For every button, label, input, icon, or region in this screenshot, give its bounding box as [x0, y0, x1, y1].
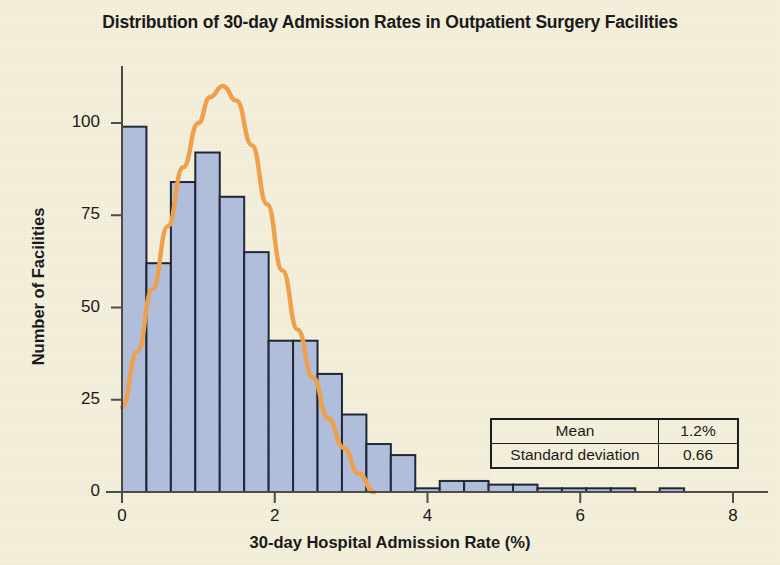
y-axis-tick-label: 75 [40, 204, 100, 224]
stat-label-cell: Standard deviation [491, 443, 659, 467]
x-axis-tick-label: 8 [713, 506, 753, 526]
stat-label-cell: Mean [491, 419, 659, 443]
stat-value-cell: 0.66 [659, 443, 739, 467]
stat-value-cell: 1.2% [659, 419, 739, 443]
histogram-bar [171, 182, 195, 492]
x-axis-tick-label: 2 [255, 506, 295, 526]
histogram-bar [513, 485, 537, 492]
x-axis-tick-label: 0 [102, 506, 142, 526]
histogram-plot-area [0, 0, 780, 565]
statistics-table: Mean1.2%Standard deviation0.66 [490, 418, 739, 469]
x-axis-tick-label: 4 [408, 506, 448, 526]
histogram-bar [195, 153, 219, 492]
histogram-bar [440, 481, 464, 492]
x-axis-ticks [122, 492, 733, 503]
table-row: Standard deviation0.66 [491, 443, 738, 467]
chart-figure: Distribution of 30-day Admission Rates i… [0, 0, 780, 565]
y-axis-tick-label: 100 [40, 112, 100, 132]
histogram-bar [464, 481, 488, 492]
y-axis-tick-label: 25 [40, 389, 100, 409]
histogram-bar [489, 485, 513, 492]
x-axis-title: 30-day Hospital Admission Rate (%) [0, 533, 780, 552]
y-axis-tick-label: 50 [40, 297, 100, 317]
histogram-bar [342, 415, 366, 492]
histogram-bar [244, 252, 268, 492]
histogram-bar [269, 341, 293, 492]
histogram-bar [122, 127, 146, 492]
x-axis-tick-label: 6 [560, 506, 600, 526]
histogram-bar [220, 197, 244, 492]
y-axis-title: Number of Facilities [29, 117, 48, 457]
y-axis-tick-label: 0 [40, 481, 100, 501]
histogram-bar [366, 444, 390, 492]
histogram-bar [391, 455, 415, 492]
table-row: Mean1.2% [491, 419, 738, 443]
y-axis-ticks [111, 123, 122, 492]
